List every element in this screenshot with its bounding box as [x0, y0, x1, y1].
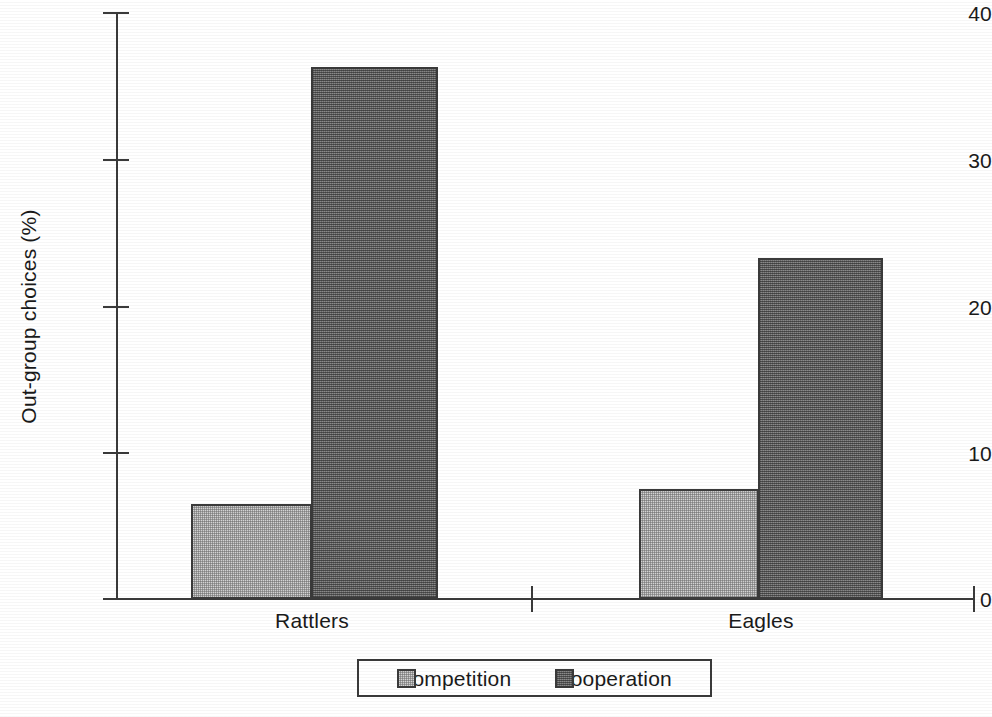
- x-axis-group-label-eagles: Eagles: [640, 609, 882, 633]
- y-axis-tick-10: [103, 452, 129, 454]
- y-axis-tick-30: [103, 159, 129, 161]
- plot-area: 40 30 20 10 0 Out-group choices (%) Ratt…: [0, 0, 992, 717]
- bar-rattlers-competition: [191, 504, 312, 599]
- y-axis-title: Out-group choices (%): [18, 167, 39, 467]
- legend-entry-competition: Competition: [397, 668, 511, 689]
- legend-swatch-cooperation-icon: [555, 669, 574, 688]
- y-axis-tick-label-30: 30: [900, 150, 992, 171]
- y-axis-tick-40: [103, 12, 129, 14]
- y-axis-tick-label-40: 40: [900, 3, 992, 24]
- bar-eagles-competition: [639, 489, 759, 599]
- x-axis-tick-group-separator: [531, 586, 533, 612]
- y-axis-tick-label-10: 10: [900, 443, 992, 464]
- bar-rattlers-cooperation: [311, 67, 438, 599]
- bar-chart-figure: 40 30 20 10 0 Out-group choices (%) Ratt…: [0, 0, 992, 717]
- y-axis-tick-20: [103, 306, 129, 308]
- legend-swatch-competition-icon: [397, 669, 416, 688]
- x-axis-tick-right-end: [973, 586, 975, 612]
- chart-legend: Competition Cooperation: [357, 659, 712, 697]
- legend-entry-cooperation: Cooperation: [555, 668, 672, 689]
- y-axis-tick-label-20: 20: [900, 297, 992, 318]
- x-axis-group-label-rattlers: Rattlers: [192, 609, 432, 633]
- bar-eagles-cooperation: [758, 258, 883, 599]
